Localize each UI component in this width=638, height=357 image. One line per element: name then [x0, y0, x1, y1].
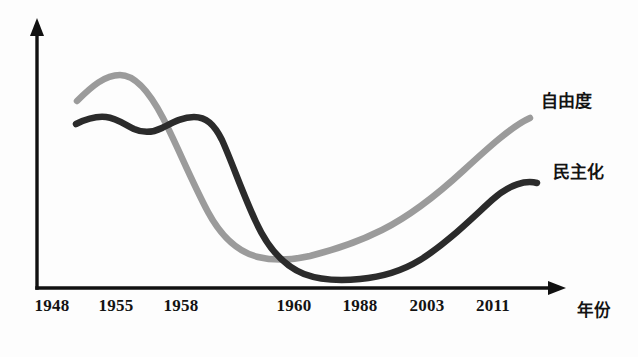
x-axis-arrow-icon	[548, 281, 566, 295]
x-tick-label-1960: 1960	[277, 296, 312, 316]
x-tick-label-1955: 1955	[99, 296, 134, 316]
chart-container: 1948 1955 1958 1960 1988 2003 2011 年份 自由…	[0, 0, 638, 357]
y-axis-arrow-icon	[30, 18, 44, 36]
chart-plot-area	[0, 0, 638, 357]
x-axis-title: 年份	[577, 297, 611, 321]
x-tick-label-1988: 1988	[343, 296, 378, 316]
x-tick-label-2003: 2003	[410, 296, 445, 316]
series-label-freedom: 自由度	[541, 87, 592, 112]
x-tick-label-2011: 2011	[476, 296, 510, 316]
series-line-freedom	[77, 75, 530, 260]
series-label-democratization: 民主化	[553, 158, 604, 183]
x-tick-label-1948: 1948	[35, 296, 70, 316]
x-tick-label-1958: 1958	[164, 296, 199, 316]
